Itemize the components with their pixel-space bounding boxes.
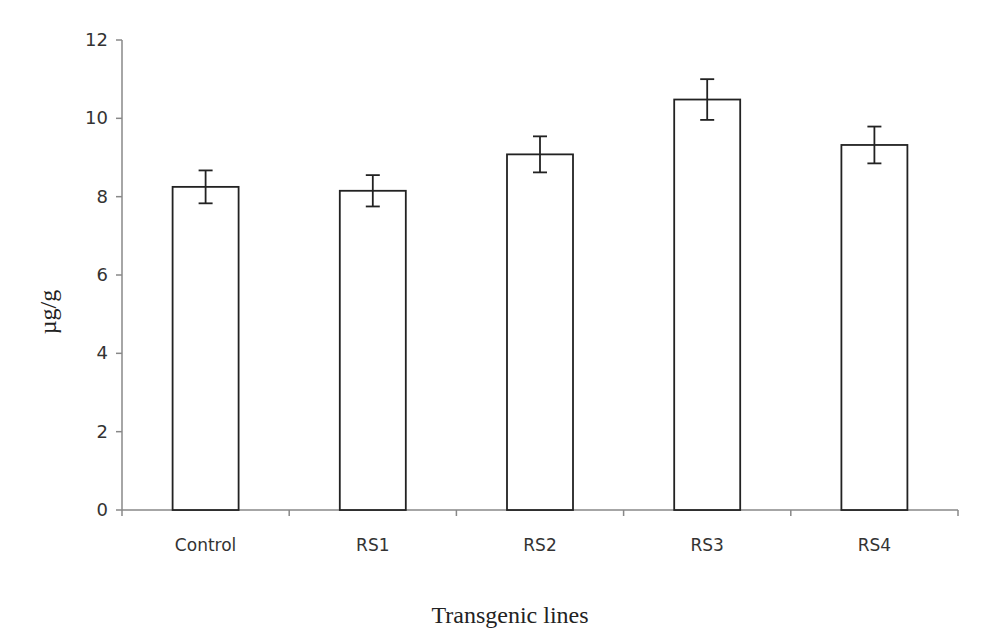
y-tick-label: 10 <box>85 107 108 128</box>
x-tick-label: RS2 <box>523 535 556 555</box>
x-tick-label: RS4 <box>858 535 891 555</box>
bar-rs1 <box>340 175 406 510</box>
y-tick-label: 4 <box>97 342 108 363</box>
y-axis: 024681012 <box>85 29 122 520</box>
x-axis: ControlRS1RS2RS3RS4 <box>122 510 958 555</box>
bar-rs2 <box>507 136 573 510</box>
bars <box>173 79 908 510</box>
bar-rs3 <box>674 79 740 510</box>
bar-rs4 <box>841 127 907 510</box>
x-tick-label: RS1 <box>356 535 389 555</box>
bar-chart: 024681012 ControlRS1RS2RS3RS4 Transgenic… <box>0 0 994 629</box>
y-tick-label: 8 <box>97 186 108 207</box>
x-axis-title: Transgenic lines <box>431 602 588 628</box>
y-axis-title: µg/g <box>35 290 61 335</box>
y-tick-label: 12 <box>85 29 108 50</box>
y-tick-label: 6 <box>97 264 108 285</box>
y-tick-label: 2 <box>97 421 108 442</box>
bar-control <box>173 170 239 510</box>
y-tick-label: 0 <box>97 499 108 520</box>
x-tick-label: Control <box>175 535 236 555</box>
x-tick-label: RS3 <box>690 535 723 555</box>
